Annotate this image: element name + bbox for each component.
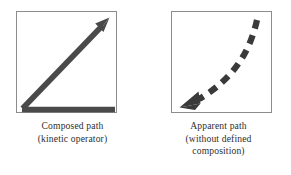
panel-apparent-path: Apparent path (without defined compositi… (146, 0, 291, 175)
composed-path-artwork (16, 11, 117, 113)
panel-composed-path: Composed path (kinetic operator) (0, 0, 145, 175)
caption-line: composition) (146, 145, 291, 158)
apparent-path-caption: Apparent path (without defined compositi… (146, 120, 291, 158)
solid-arrow-icon (22, 18, 115, 110)
dashed-arrow-icon (180, 20, 258, 110)
apparent-path-frame-wrap (171, 11, 272, 113)
apparent-path-artwork (171, 11, 272, 113)
caption-line: Apparent path (146, 120, 291, 133)
composed-path-caption: Composed path (kinetic operator) (0, 120, 145, 145)
caption-line: (without defined (146, 133, 291, 146)
caption-line: (kinetic operator) (0, 133, 145, 146)
diagram-figure: Composed path (kinetic operator) (0, 0, 291, 175)
composed-path-frame-wrap (16, 11, 117, 113)
caption-line: Composed path (0, 120, 145, 133)
